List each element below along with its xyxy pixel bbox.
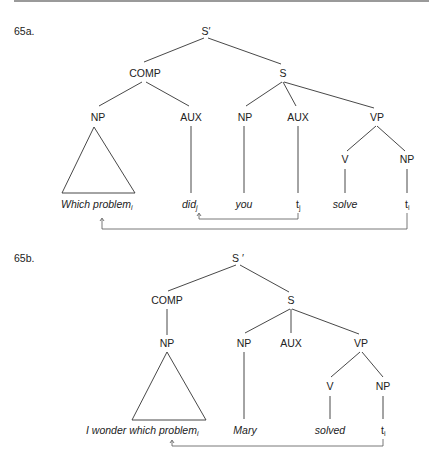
np-triangle <box>62 127 135 193</box>
node-aux: AUX <box>287 111 309 123</box>
leaf-you: you <box>235 198 253 210</box>
node-np: NP <box>238 111 253 123</box>
example-label: 65b. <box>14 252 34 264</box>
example-label: 65a. <box>14 25 34 37</box>
node-aux: AUX <box>280 337 302 349</box>
node-np: NP <box>400 153 415 165</box>
node-np: NP <box>237 337 252 349</box>
node-v: V <box>326 380 333 392</box>
node-np: NP <box>160 337 175 349</box>
leaf-solved: solved <box>315 424 347 436</box>
node-comp: COMP <box>129 67 161 79</box>
node-vp: VP <box>354 337 368 349</box>
node-np: NP <box>376 380 391 392</box>
leaf-trace-np: ti <box>405 198 410 211</box>
node-v: V <box>341 153 348 165</box>
node-np: NP <box>91 111 106 123</box>
leaf-trace-np: ti <box>381 424 386 437</box>
leaf-i-wonder-which-problem: I wonder which problemi <box>86 424 199 437</box>
movement-arrow-np <box>102 213 407 229</box>
np-triangle <box>132 352 206 420</box>
tree-65b: 65b. S ′ COMP S NP NP AUX VP V NP I wond… <box>14 252 390 446</box>
node-s-bar: S′ <box>202 25 211 37</box>
syntax-tree-figure: 65a. S′ COMP S NP AUX NP AUX VP V NP Whi… <box>0 0 429 461</box>
node-s-bar: S ′ <box>232 252 244 264</box>
leaf-trace-aux: tj <box>296 198 301 212</box>
tree-65a: 65a. S′ COMP S NP AUX NP AUX VP V NP Whi… <box>14 25 414 229</box>
leaf-solve: solve <box>333 198 358 210</box>
movement-arrow-np <box>172 439 383 446</box>
leaf-did: didj <box>182 198 198 212</box>
movement-arrow-aux <box>199 213 298 219</box>
leaf-mary: Mary <box>233 424 257 436</box>
node-s: S <box>279 67 286 79</box>
node-s: S <box>287 294 294 306</box>
node-vp: VP <box>370 111 384 123</box>
leaf-which-problem: Which problemi <box>61 198 133 211</box>
node-aux: AUX <box>180 111 202 123</box>
node-comp: COMP <box>151 294 183 306</box>
